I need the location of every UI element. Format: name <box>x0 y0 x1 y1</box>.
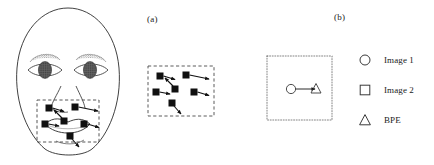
panel-a-label: (a) <box>147 14 158 24</box>
panel-b-dotted-box <box>267 56 332 120</box>
triangle-icon <box>358 112 374 128</box>
motion-marker <box>191 89 210 96</box>
motion-marker <box>169 100 182 115</box>
face-motion-vectors <box>42 104 100 148</box>
motion-marker <box>153 89 171 96</box>
panel-b-correspondence-vector <box>286 84 321 94</box>
motion-marker <box>67 133 80 148</box>
panel-a-motion-vectors <box>153 72 210 115</box>
motion-marker <box>165 78 179 93</box>
circle-icon <box>358 52 374 68</box>
right-iris <box>83 62 96 79</box>
symbol-legend: Image 1 Image 2 BPE <box>358 52 434 142</box>
motion-marker <box>183 72 210 80</box>
panel-b-label: (b) <box>334 12 345 22</box>
legend-label-bpe: BPE <box>384 115 401 125</box>
right-eye <box>74 62 108 79</box>
legend-label-image-1: Image 1 <box>384 55 414 65</box>
legend-label-image-2: Image 2 <box>384 85 414 95</box>
left-eye <box>28 62 62 79</box>
panel-b <box>267 56 332 120</box>
legend-item-bpe: BPE <box>358 112 401 128</box>
legend-item-image-2: Image 2 <box>358 82 414 98</box>
square-icon <box>358 82 374 98</box>
legend-item-image-1: Image 1 <box>358 52 414 68</box>
panel-a <box>148 66 214 116</box>
face-schematic <box>17 8 120 155</box>
circle-icon <box>286 84 295 93</box>
figure-root: (a) (b) Image 1 Image 2 BPE <box>0 0 434 165</box>
triangle-icon <box>311 84 321 94</box>
left-iris <box>38 62 51 79</box>
